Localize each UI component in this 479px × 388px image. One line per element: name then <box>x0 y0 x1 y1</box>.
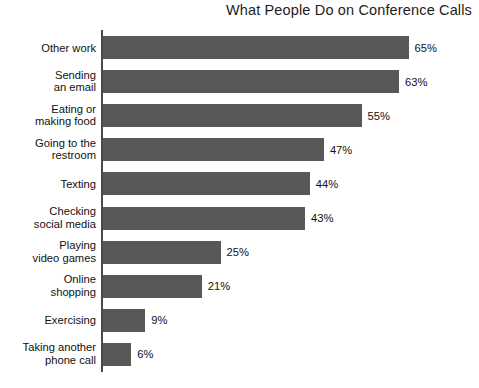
bar-value-label: 25% <box>227 246 249 258</box>
bar <box>103 241 221 264</box>
bar-value-label: 63% <box>405 76 427 88</box>
bar <box>103 138 324 161</box>
bar-category-label: Taking another phone call <box>0 342 96 367</box>
bar <box>103 104 362 127</box>
bar-row: Other work65% <box>0 36 479 59</box>
bar-row: Playing video games25% <box>0 241 479 264</box>
bar <box>103 343 131 366</box>
bar-category-label: Playing video games <box>0 240 96 265</box>
bar <box>103 275 202 298</box>
bar-category-label: Online shopping <box>0 274 96 299</box>
bar-category-label: Checking social media <box>0 205 96 230</box>
bar <box>103 309 145 332</box>
bar-value-label: 9% <box>151 314 167 326</box>
bar-row: Eating or making food55% <box>0 104 479 127</box>
bar-value-label: 6% <box>137 348 153 360</box>
bar-value-label: 21% <box>208 280 230 292</box>
bar-value-label: 47% <box>330 144 352 156</box>
bar-category-label: Texting <box>0 178 96 191</box>
bar-category-label: Other work <box>0 41 96 54</box>
bar-row: Checking social media43% <box>0 207 479 230</box>
bar-value-label: 43% <box>311 212 333 224</box>
bar-category-label: Eating or making food <box>0 103 96 128</box>
bar-row: Texting44% <box>0 172 479 195</box>
bar-row: Online shopping21% <box>0 275 479 298</box>
bar-category-label: Exercising <box>0 314 96 327</box>
bar <box>103 172 310 195</box>
bar-row: Taking another phone call6% <box>0 343 479 366</box>
bar-value-label: 55% <box>368 110 390 122</box>
bar-chart: What People Do on Conference Calls Other… <box>0 0 479 388</box>
bar <box>103 70 399 93</box>
bar-row: Going to the restroom47% <box>0 138 479 161</box>
bar <box>103 36 409 59</box>
plot-area: Other work65%Sending an email63%Eating o… <box>0 0 479 388</box>
bar-value-label: 44% <box>316 178 338 190</box>
bar-category-label: Sending an email <box>0 69 96 94</box>
bar-row: Exercising9% <box>0 309 479 332</box>
bar <box>103 207 305 230</box>
bar-category-label: Going to the restroom <box>0 137 96 162</box>
bar-value-label: 65% <box>415 42 437 54</box>
bar-row: Sending an email63% <box>0 70 479 93</box>
